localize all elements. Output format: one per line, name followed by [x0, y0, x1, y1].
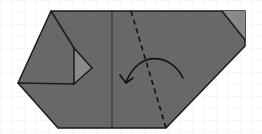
diagram-canvas [0, 0, 262, 134]
flap-edge-line [18, 83, 74, 84]
fold-diagram [0, 0, 262, 134]
